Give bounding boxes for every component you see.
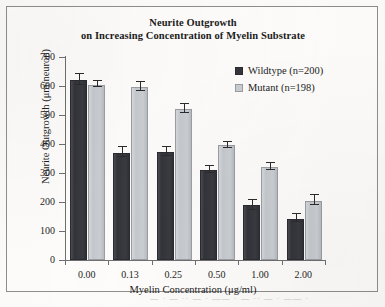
bar-group [195, 57, 238, 260]
error-bar-cap-bottom [118, 156, 127, 157]
error-bar-cap-bottom [136, 90, 145, 91]
y-axis-title: Neurite Outgrowth (μm/neuron) [40, 27, 51, 207]
bar-group [152, 57, 195, 260]
scanned-page: Neurite Outgrowth on Increasing Concentr… [0, 0, 385, 307]
x-axis-tick [65, 260, 66, 265]
error-bar-cap-bottom [180, 112, 189, 113]
bar-mutant-0.00 [88, 85, 105, 260]
x-axis-tick [238, 260, 239, 265]
error-bar-cap-bottom [162, 155, 171, 156]
error-bar-cap-bottom [75, 84, 84, 85]
figure-frame: Neurite Outgrowth on Increasing Concentr… [6, 6, 378, 292]
bar-mutant-0.25 [175, 109, 192, 260]
error-bar [166, 146, 167, 156]
x-axis-tick-label: 0.00 [65, 269, 109, 280]
x-axis-tick [282, 260, 283, 265]
bar-mutant-2.00 [305, 201, 322, 260]
y-axis-tick-label: 0 [13, 255, 55, 265]
y-axis-tick-label: 100 [13, 226, 55, 236]
x-axis-tick-label: 1.00 [238, 269, 282, 280]
error-bar [252, 199, 253, 211]
error-bar [79, 73, 80, 85]
error-bar-cap-bottom [310, 204, 319, 205]
bar-wildtype-0.13 [113, 153, 130, 260]
error-bar [314, 194, 315, 204]
error-bar [227, 141, 228, 149]
error-bar-cap-top [118, 146, 127, 147]
error-bar-cap-top [93, 80, 102, 81]
error-bar-cap-top [310, 194, 319, 195]
error-bar-cap-top [205, 165, 214, 166]
x-axis-tick-label: 0.13 [108, 269, 152, 280]
x-axis-tick-label: 2.00 [281, 269, 325, 280]
chart-title: Neurite Outgrowth on Increasing Concentr… [7, 17, 379, 42]
bar-mutant-1.00 [261, 167, 278, 260]
error-bar [122, 146, 123, 156]
bar-wildtype-0.25 [157, 152, 174, 260]
error-bar-cap-top [248, 199, 257, 200]
chart-title-line-1: Neurite Outgrowth [149, 17, 237, 28]
error-bar-cap-top [292, 213, 301, 214]
error-bar [140, 81, 141, 91]
error-bar-cap-top [162, 146, 171, 147]
error-bar-cap-bottom [223, 147, 232, 148]
error-bar [209, 165, 210, 173]
x-axis-tick [152, 260, 153, 265]
error-bar-cap-bottom [93, 86, 102, 87]
chart-legend: Wildtype (n=200)Mutant (n=198) [235, 63, 375, 97]
error-bar-cap-top [75, 73, 84, 74]
x-axis-tick [325, 260, 326, 265]
error-bar [296, 213, 297, 222]
x-axis-tick [195, 260, 196, 265]
chart-title-line-2: on Increasing Concentration of Myelin Su… [7, 30, 379, 43]
scan-smudge-text: — · — ·· — · —— · — ·· — · —— · [150, 294, 385, 303]
legend-entry-label: Mutant (n=198) [248, 82, 315, 93]
error-bar-cap-top [223, 141, 232, 142]
bar-wildtype-1.00 [243, 205, 260, 260]
error-bar-cap-bottom [205, 172, 214, 173]
bar-group [108, 57, 151, 260]
bar-mutant-0.50 [218, 145, 235, 260]
bar-group [65, 57, 108, 260]
error-bar-cap-top [266, 162, 275, 163]
x-axis-tick-label: 0.25 [151, 269, 195, 280]
error-bar-cap-top [180, 103, 189, 104]
error-bar [270, 162, 271, 170]
legend-entry: Wildtype (n=200) [235, 63, 375, 78]
x-axis-tick-label: 0.50 [195, 269, 239, 280]
error-bar-cap-top [136, 81, 145, 82]
bar-wildtype-2.00 [287, 219, 304, 260]
error-bar-cap-bottom [292, 221, 301, 222]
bar-wildtype-0.50 [200, 170, 217, 260]
error-bar [184, 103, 185, 113]
error-bar-cap-bottom [266, 169, 275, 170]
error-bar-cap-bottom [248, 209, 257, 210]
x-axis-tick [108, 260, 109, 265]
bar-mutant-0.13 [131, 87, 148, 260]
error-bar [97, 80, 98, 88]
light-filled-square-icon [235, 84, 243, 92]
dark-filled-square-icon [235, 67, 243, 75]
legend-entry-label: Wildtype (n=200) [248, 65, 323, 76]
legend-entry: Mutant (n=198) [235, 80, 375, 95]
bar-wildtype-0.00 [70, 80, 87, 260]
